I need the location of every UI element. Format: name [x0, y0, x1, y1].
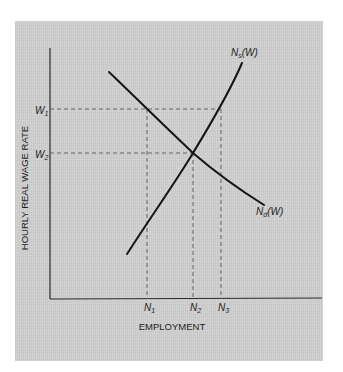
w1-label: W1 [35, 105, 48, 117]
w2-label: W2 [35, 149, 48, 161]
x-axis-title: EMPLOYMENT [139, 321, 206, 332]
y-axis-title: HOURLY REAL WAGE RATE [19, 126, 30, 250]
demand-curve [109, 72, 264, 205]
n3-label: N3 [218, 302, 229, 314]
n2-label: N2 [190, 302, 201, 314]
supply-curve-label: Ns(W) [231, 47, 258, 59]
x-axis [50, 298, 322, 299]
supply-curve [127, 63, 242, 254]
demand-curve-label: Nd(W) [256, 206, 283, 218]
labor-market-diagram: Ns(W) Nd(W) W1 W2 N1 N2 N3 EMPLOYMENT HO… [0, 0, 343, 372]
n1-label: N1 [144, 302, 155, 314]
